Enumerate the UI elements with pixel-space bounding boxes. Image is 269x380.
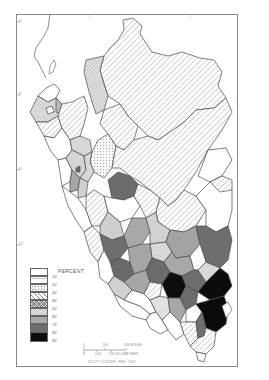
scale-bar: 0 100 200 MILES 0 100 200 KILOMETERS [80, 344, 160, 358]
legend-label-80: 80 [52, 330, 56, 335]
puna-island-outline [49, 60, 56, 74]
scale-miles-100: 100 [102, 343, 108, 347]
legend-swatch-60 [30, 308, 48, 316]
scale-km-0: 0 [83, 352, 85, 356]
scale-miles-0: 0 [83, 343, 85, 347]
legend-swatch-40 [30, 292, 48, 300]
legend-label-40: 40 [52, 298, 56, 303]
latitude-ticks [16, 22, 20, 245]
region-ancash-d [78, 178, 88, 198]
legend-label-70: 70 [52, 322, 56, 327]
ecuador-coast-outline [34, 14, 50, 78]
legend-label-50: 50 [52, 306, 56, 311]
lat-label-4: 4° [19, 92, 22, 96]
region-huancavelica-b [124, 218, 150, 248]
scale-km-100: 100 [95, 352, 101, 356]
legend-label-10: 10 [52, 274, 56, 279]
scale-miles-200: 200 MILES [124, 343, 142, 347]
legend-swatch-70 [30, 316, 48, 324]
legend-label-90: 90 [52, 338, 56, 343]
legend-swatch-80 [30, 324, 48, 332]
legend-swatch-10 [30, 268, 48, 276]
map-credit: SCOTT FOSTER, FEB. 1967 [88, 360, 136, 364]
legend-swatch-50 [30, 300, 48, 308]
lat-label-0: 0° [19, 19, 22, 23]
legend-title: PERCENT [58, 268, 84, 274]
legend-swatch-20 [30, 276, 48, 284]
legend-label-20: 20 [52, 282, 56, 287]
scale-km-200: 200 KILOMETERS [109, 352, 138, 356]
region-tacna-south [196, 352, 206, 362]
lat-label-12: 12° [19, 242, 24, 246]
legend-swatch-90 [30, 332, 48, 342]
lat-label-8: 8° [19, 167, 22, 171]
legend-swatch-30 [30, 284, 48, 292]
legend-label-60: 60 [52, 314, 56, 319]
regions [30, 18, 232, 362]
legend-label-30: 30 [52, 290, 56, 295]
